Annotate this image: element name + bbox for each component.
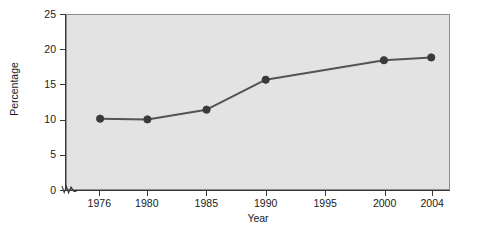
x-axis-tick — [385, 191, 386, 196]
data-point — [144, 116, 151, 123]
y-axis-tick-label: 25 — [30, 9, 56, 19]
y-axis-tick-label: 15 — [30, 79, 56, 89]
data-point — [203, 106, 210, 113]
x-axis-tick-label: 2000 — [364, 198, 406, 209]
y-axis-tick — [60, 49, 65, 50]
y-axis-line — [65, 14, 66, 191]
y-axis-tick-label: 0 — [30, 185, 56, 195]
x-axis-tick — [325, 191, 326, 196]
x-axis-title: Year — [66, 212, 450, 224]
y-axis-tick — [60, 120, 65, 121]
x-axis-tick-label: 2004 — [411, 198, 453, 209]
plot-svg — [67, 15, 449, 189]
x-axis-tick-label: 1990 — [245, 198, 287, 209]
data-series-line — [100, 57, 431, 119]
line-chart-figure: 0510152025 Percentage 197619801985199019… — [0, 0, 478, 232]
y-axis-tick-label: 20 — [30, 44, 56, 54]
x-axis-tick — [99, 191, 100, 196]
x-axis-tick-label: 1985 — [185, 198, 227, 209]
data-point-markers — [96, 54, 435, 123]
y-axis-tick-label: 5 — [30, 149, 56, 159]
y-axis-tick — [60, 155, 65, 156]
data-point — [380, 57, 387, 64]
y-axis-tick-label: 10 — [30, 114, 56, 124]
data-point — [428, 54, 435, 61]
x-axis-tick-label: 1976 — [78, 198, 120, 209]
x-axis-tick — [206, 191, 207, 196]
plot-area — [66, 14, 450, 190]
x-axis-line — [66, 190, 450, 191]
x-axis-tick — [266, 191, 267, 196]
y-axis-title: Percentage — [8, 54, 20, 124]
data-point — [96, 115, 103, 122]
x-axis-tick — [432, 191, 433, 196]
y-axis-tick — [60, 84, 65, 85]
x-axis-tick-label: 1995 — [304, 198, 346, 209]
y-axis-tick — [60, 14, 65, 15]
data-point — [262, 76, 269, 83]
x-axis-tick-label: 1980 — [126, 198, 168, 209]
x-axis-tick — [147, 191, 148, 196]
